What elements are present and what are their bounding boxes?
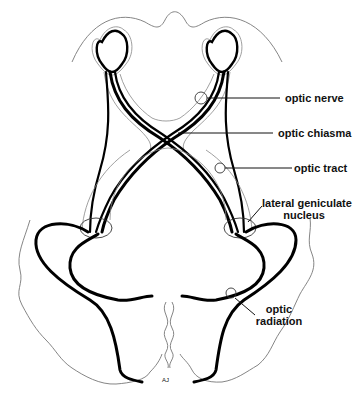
optic-nerves-and-chiasma: [82, 72, 252, 232]
label-radiation-line2: radiation: [254, 315, 304, 327]
artist-signature: AJ: [162, 374, 169, 386]
label-radiation-line1: optic: [254, 303, 304, 315]
label-optic-nerve: optic nerve: [285, 92, 344, 104]
label-lgn-line2: nucleus: [262, 209, 346, 221]
label-optic-chiasma: optic chiasma: [278, 127, 351, 139]
left-eye: [92, 27, 132, 75]
label-optic-tract: optic tract: [294, 162, 347, 174]
label-lateral-geniculate-nucleus: lateral geniculate nucleus: [262, 197, 346, 221]
optic-tract-marker: [215, 163, 225, 173]
label-optic-radiation: optic radiation: [254, 303, 304, 327]
right-eye: [202, 27, 242, 75]
label-lgn-line1: lateral geniculate: [262, 197, 346, 209]
